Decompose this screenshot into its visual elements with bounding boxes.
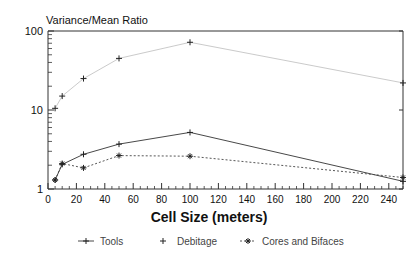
x-tick-label: 20 <box>71 194 83 205</box>
series-tools <box>52 129 406 184</box>
asterisk-marker-icon <box>116 153 122 159</box>
x-tick-label: 60 <box>128 194 140 205</box>
series-cores-and-bifaces <box>52 153 406 183</box>
x-tick-label: 240 <box>380 194 397 205</box>
legend-item-cores-and-bifaces[interactable]: Cores and Bifaces <box>240 236 344 247</box>
x-tick-label: 200 <box>324 194 341 205</box>
y-axis-title: Variance/Mean Ratio <box>46 14 148 26</box>
x-tick-label: 0 <box>45 194 51 205</box>
y-tick-label: 1 <box>37 183 43 195</box>
legend-label: Debitage <box>177 236 217 247</box>
plot-frame <box>48 31 403 189</box>
x-tick-label: 80 <box>156 194 168 205</box>
plus-marker-icon <box>187 39 193 45</box>
plus-marker-icon <box>116 55 122 61</box>
x-tick-label: 220 <box>352 194 369 205</box>
x-tick-label: 40 <box>99 194 111 205</box>
asterisk-marker-icon <box>81 165 87 171</box>
plus-marker-icon <box>187 129 193 135</box>
x-axis-title: Cell Size (meters) <box>151 209 268 225</box>
asterisk-marker-icon <box>400 174 406 180</box>
x-tick-label: 140 <box>238 194 255 205</box>
asterisk-marker-icon <box>59 161 65 167</box>
plus-marker-icon <box>81 151 87 157</box>
chart-figure: Variance/Mean Ratio 110100 0204060801001… <box>0 0 419 263</box>
x-axis-ticks <box>48 183 403 189</box>
chart-legend: ToolsDebitageCores and Bifaces <box>78 236 344 247</box>
plus-marker-icon <box>116 141 122 147</box>
x-tick-label: 120 <box>210 194 227 205</box>
x-tick-label: 100 <box>182 194 199 205</box>
plus-marker-icon <box>160 238 166 244</box>
data-series-layer <box>52 39 406 184</box>
legend-label: Tools <box>100 236 123 247</box>
y-axis-ticks <box>48 31 403 189</box>
x-tick-label: 160 <box>267 194 284 205</box>
variance-mean-ratio-line-chart: Variance/Mean Ratio 110100 0204060801001… <box>0 0 419 263</box>
legend-item-debitage[interactable]: Debitage <box>160 236 217 247</box>
series-debitage <box>52 39 406 111</box>
x-tick-label: 180 <box>295 194 312 205</box>
legend-label: Cores and Bifaces <box>262 236 344 247</box>
asterisk-marker-icon <box>52 177 58 183</box>
y-tick-label: 10 <box>31 104 43 116</box>
asterisk-marker-icon <box>245 238 251 244</box>
plus-marker-icon <box>400 80 406 86</box>
asterisk-marker-icon <box>187 153 193 159</box>
plus-marker-icon <box>83 238 89 244</box>
legend-item-tools[interactable]: Tools <box>78 236 123 247</box>
y-axis-tick-labels: 110100 <box>25 25 43 195</box>
y-tick-label: 100 <box>25 25 43 37</box>
x-axis-tick-labels: 020406080100120140160180200220240 <box>45 194 397 205</box>
